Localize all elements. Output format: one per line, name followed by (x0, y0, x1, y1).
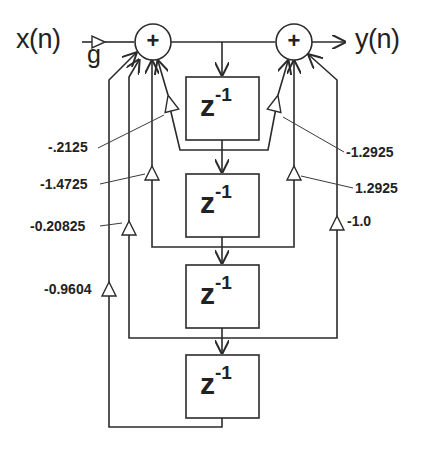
coef-feedback-1: -.2125 (48, 139, 88, 155)
input-gain-label: g (87, 40, 100, 69)
delay-1-label: z-1 (200, 88, 232, 123)
delay-4-label: z-1 (200, 366, 232, 401)
coef-feedback-2: -1.4725 (40, 176, 87, 192)
input-label: x(n) (16, 24, 61, 55)
coef-feedforward-2: 1.2925 (355, 180, 398, 196)
coef-feedback-4: -0.9604 (44, 281, 91, 297)
coef-feedforward-3: -1.0 (347, 213, 371, 229)
delay-2-label: z-1 (200, 185, 232, 220)
sum-right-plus: + (284, 28, 304, 54)
sum-left-plus: + (143, 28, 163, 54)
output-label: y(n) (355, 24, 400, 55)
coef-feedback-3: -0.20825 (30, 218, 85, 234)
delay-3-label: z-1 (200, 276, 232, 311)
coef-feedforward-1: -1.2925 (346, 144, 393, 160)
